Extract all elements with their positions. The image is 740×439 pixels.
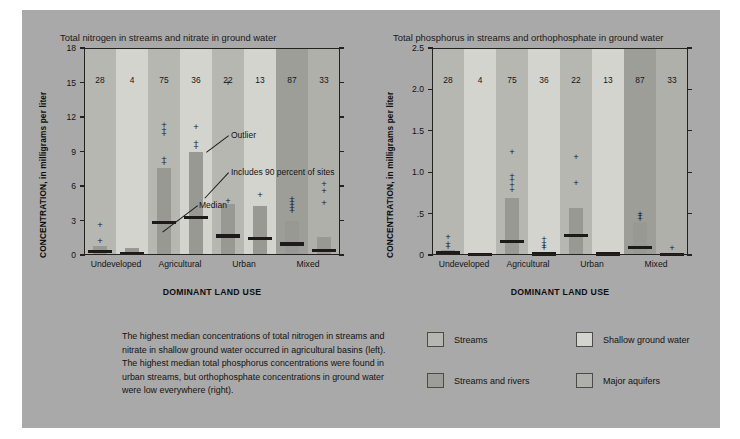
x-tick-label: Mixed — [276, 259, 340, 269]
y-tick-label: 12 — [42, 112, 76, 122]
legend-label-streams: Streams — [454, 335, 488, 345]
chart-title-phosphorus: Total phosphorus in streams and orthopho… — [393, 32, 663, 43]
x-axis-title-nitrogen: DOMINANT LAND USE — [82, 287, 342, 297]
y-tick-label: 6 — [42, 181, 76, 191]
y-tick-label: 0 — [42, 250, 76, 260]
y-tick-label: 18 — [42, 43, 76, 53]
y-tick-label: 9 — [42, 147, 76, 157]
y-tick-label: .5 — [390, 209, 424, 219]
legend-swatch-streams-and-rivers — [427, 373, 444, 388]
annotation-box-range: Includes 90 percent of sites — [231, 167, 334, 177]
legend-swatch-major-aquifers — [576, 373, 593, 388]
chart-title-nitrogen: Total nitrogen in streams and nitrate in… — [60, 32, 276, 43]
plot-area-phosphorus — [432, 48, 688, 255]
x-tick-label: Undeveloped — [432, 259, 496, 269]
y-tick-label: 0 — [390, 250, 424, 260]
legend-swatch-streams — [427, 332, 444, 347]
x-tick-label: Agricultural — [148, 259, 212, 269]
y-tick-label: 2.5 — [390, 43, 424, 53]
figure-caption: The highest median concentrations of tot… — [122, 330, 402, 398]
legend-label-streams-and-rivers: Streams and rivers — [454, 376, 530, 386]
legend-swatch-shallow-ground-water — [576, 332, 593, 347]
x-tick-label: Urban — [560, 259, 624, 269]
x-tick-label: Mixed — [624, 259, 688, 269]
figure-panel: Total nitrogen in streams and nitrate in… — [22, 10, 720, 428]
x-tick-label: Urban — [212, 259, 276, 269]
y-tick-label: 2.0 — [390, 84, 424, 94]
x-tick-label: Undeveloped — [84, 259, 148, 269]
legend-label-shallow-ground-water: Shallow ground water — [603, 335, 690, 345]
y-tick-label: 3 — [42, 216, 76, 226]
legend-label-major-aquifers: Major aquifers — [603, 376, 660, 386]
x-tick-label: Agricultural — [496, 259, 560, 269]
annotation-median: Median — [199, 200, 227, 210]
y-tick-label: 1.5 — [390, 126, 424, 136]
x-axis-title-phosphorus: DOMINANT LAND USE — [430, 287, 690, 297]
y-tick-label: 15 — [42, 78, 76, 88]
plot-area-nitrogen — [84, 48, 340, 255]
annotation-outlier: Outlier — [231, 130, 256, 140]
y-tick-label: 1.0 — [390, 167, 424, 177]
